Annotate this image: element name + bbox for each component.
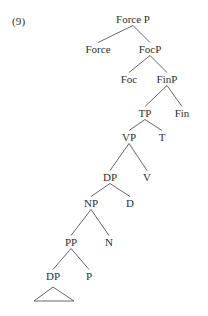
tree-node-p: P <box>86 271 92 282</box>
branch-dp1-to-np <box>91 184 110 197</box>
tree-node-v: V <box>143 172 151 183</box>
tree-node-vp: VP <box>122 132 136 143</box>
branch-focP-to-finP <box>150 56 167 73</box>
branch-dp1-to-d <box>110 184 130 197</box>
elision-triangle <box>34 287 74 301</box>
tree-node-np: NP <box>84 198 98 209</box>
branch-vp-to-dp1 <box>110 144 129 171</box>
branch-finP-to-fin <box>167 86 182 107</box>
tree-node-fin: Fin <box>175 108 190 119</box>
branch-tp-to-vp <box>129 120 145 131</box>
branch-np-to-pp <box>71 210 91 236</box>
tree-node-dp1: DP <box>103 172 117 183</box>
tree-node-pp: PP <box>65 237 77 248</box>
tree-node-dp2: DP <box>46 271 60 282</box>
tree-node-foc: Foc <box>121 74 138 85</box>
branch-pp-to-dp2 <box>53 249 71 270</box>
tree-node-d: D <box>126 198 134 209</box>
branch-np-to-n <box>91 210 109 236</box>
branch-focP-to-foc <box>129 56 150 73</box>
tree-node-n: N <box>105 237 113 248</box>
branch-tp-to-t <box>145 120 162 131</box>
tree-node-force: Force <box>85 44 110 55</box>
tree-node-finP: FinP <box>157 74 178 85</box>
tree-node-forceP: Force P <box>116 14 150 25</box>
branch-forceP-to-focP <box>133 26 150 43</box>
branch-vp-to-v <box>129 144 147 171</box>
tree-node-focP: FocP <box>139 44 162 55</box>
branch-finP-to-tp <box>145 86 167 107</box>
branch-forceP-to-force <box>98 26 133 43</box>
branch-pp-to-p <box>71 249 89 270</box>
syntax-tree-figure: (9) Force PForceFocPFocFinPTPFinVPTDPVNP… <box>0 0 208 316</box>
tree-node-t: T <box>159 132 166 143</box>
tree-node-tp: TP <box>139 108 152 119</box>
